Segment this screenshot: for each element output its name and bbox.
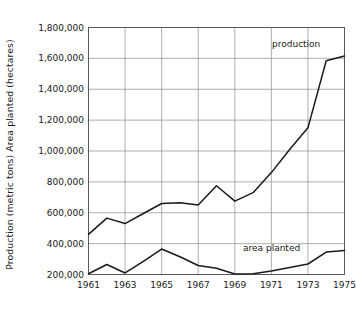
series-label-area-planted: area planted (243, 243, 300, 253)
x-tick-label: 1961 (69, 280, 109, 290)
line-chart-figure: Production (metric tons) Area planted (h… (0, 0, 356, 309)
x-tick-label: 1973 (288, 280, 328, 290)
x-tick-label: 1969 (215, 280, 255, 290)
series-label-production: production (272, 39, 320, 49)
x-tick-label: 1975 (325, 280, 356, 290)
x-tick-label: 1967 (178, 280, 218, 290)
x-tick-label: 1971 (251, 280, 291, 290)
x-tick-label: 1963 (105, 280, 145, 290)
x-tick-label: 1965 (142, 280, 182, 290)
